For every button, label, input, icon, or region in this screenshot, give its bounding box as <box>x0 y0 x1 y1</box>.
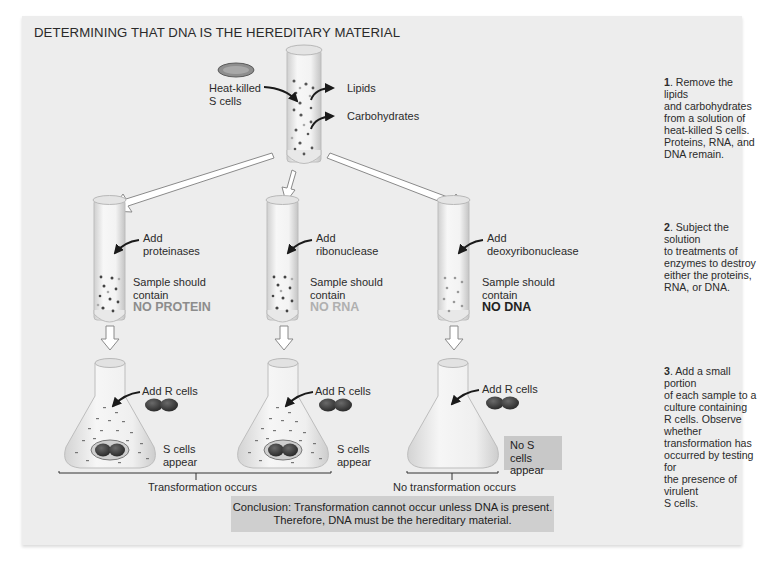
add-deoxyribonuclease-label: Adddeoxyribonuclease <box>487 232 579 257</box>
lipids-label: Lipids <box>347 82 376 95</box>
s-cell-icon <box>218 63 254 77</box>
result-no-protein: NO PROTEIN <box>133 301 211 314</box>
no-s-cells-badge: No S cellsappear <box>504 436 562 470</box>
flask-2 <box>238 359 329 469</box>
down-arrows <box>101 326 463 350</box>
enzyme-tube-2 <box>266 196 299 323</box>
result-no-rna: NO RNA <box>310 301 383 314</box>
heat-killed-label: Heat-killedS cells <box>209 82 261 107</box>
add-r-cells-label-2: Add R cells <box>315 385 371 398</box>
step-1: 1. Remove the lipids and carbohydrates f… <box>664 76 759 160</box>
result-no-dna: NO DNA <box>482 301 555 314</box>
transformation-occurs-label: Transformation occurs <box>148 481 257 494</box>
bracket-no-transformation <box>407 471 498 480</box>
step-3: 3. Add a small portion of each sample to… <box>664 365 759 509</box>
sample-label-3: Sample shouldcontain NO DNA <box>482 276 555 314</box>
step-2: 2. Subject the solution to treatments of… <box>664 221 759 293</box>
r-cell-icon-1 <box>145 399 178 412</box>
top-test-tube <box>286 45 322 164</box>
enzyme-tube-3 <box>437 196 470 323</box>
s-cells-appear-1: S cellsappear <box>163 443 197 468</box>
bracket-transformation <box>59 471 331 480</box>
no-transformation-label: No transformation occurs <box>393 481 516 494</box>
enzyme-tube-1 <box>93 196 126 323</box>
r-cell-icon-2 <box>319 399 352 412</box>
sample-label-2: Sample shouldcontain NO RNA <box>310 276 383 314</box>
add-ribonuclease-label: Addribonuclease <box>316 232 378 257</box>
carbohydrates-label: Carbohydrates <box>347 110 419 123</box>
flask-1 <box>65 359 156 469</box>
diagram-title: DETERMINING THAT DNA IS THE HEREDITARY M… <box>34 25 400 40</box>
flask-3 <box>408 359 499 469</box>
r-cell-icon-3 <box>486 397 519 410</box>
add-proteinases-label: Addproteinases <box>143 232 200 257</box>
conclusion-box: Conclusion: Transformation cannot occur … <box>231 496 554 532</box>
add-r-cells-label-1: Add R cells <box>142 385 198 398</box>
sample-label-1: Sample shouldcontain NO PROTEIN <box>133 276 211 314</box>
add-r-cells-label-3: Add R cells <box>482 383 538 396</box>
s-cells-appear-2: S cellsappear <box>337 443 371 468</box>
